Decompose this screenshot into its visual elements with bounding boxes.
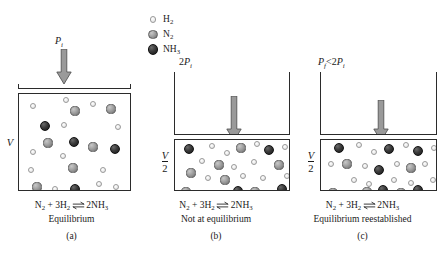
h2-molecule-icon <box>100 167 106 173</box>
nh3-molecule-icon <box>384 144 395 155</box>
n2-molecule-icon <box>32 182 41 190</box>
nh3-molecule-icon <box>110 144 121 155</box>
h2-molecule-icon <box>328 161 334 167</box>
n2-molecule-icon <box>328 188 337 190</box>
n2-molecule-icon <box>186 168 195 177</box>
nh3-molecule-icon <box>69 137 80 148</box>
h2-molecule-icon <box>282 144 288 150</box>
h2-molecule-icon <box>240 173 246 179</box>
pressure-label-c: Pf<2NPi <box>318 57 345 67</box>
n2-molecule-icon <box>88 142 97 151</box>
nh3-molecule-icon <box>233 186 244 190</box>
h2-molecule-icon <box>408 180 414 186</box>
h2-molecule-icon <box>430 177 436 183</box>
volume-fraction-c: V 2 <box>308 150 314 174</box>
nh3-molecule-icon <box>334 143 345 154</box>
n2-molecule-icon <box>70 106 79 115</box>
gas-region-b <box>175 140 289 190</box>
equilibrium-double-arrow-icon <box>363 201 376 210</box>
h2-molecule-icon <box>205 175 211 181</box>
volume-label-c: V 2 <box>303 150 319 174</box>
n2-molecule-icon <box>236 143 245 152</box>
gas-region-a <box>19 94 130 190</box>
panel-letter-a: (a) <box>0 230 143 243</box>
down-arrow-icon-a <box>56 49 72 85</box>
panel-letter-b: (b) <box>143 230 289 243</box>
h2-molecule-icon <box>422 161 428 167</box>
nh3-molecule-icon <box>413 185 424 190</box>
n2-molecule-icon <box>342 159 351 168</box>
h2-molecule-icon <box>30 149 36 155</box>
h2-molecule-icon <box>362 163 368 169</box>
equilibrium-double-arrow-icon <box>72 201 85 210</box>
nh3-molecule-icon <box>40 121 51 132</box>
h2-molecule-icon <box>30 103 36 109</box>
n2-molecule-icon <box>43 138 52 147</box>
caption-a: N2 + 3H22NH3 Equilibrium (a) <box>0 199 143 242</box>
h2-molecule-icon <box>251 159 257 165</box>
nh3-molecule-icon <box>374 165 385 176</box>
state-text-b: Not at equilibrium <box>143 213 289 226</box>
nh3-molecule-icon <box>184 144 195 155</box>
pressure-label-b: 2Pi <box>179 57 192 67</box>
nh3-molecule-icon <box>264 145 275 156</box>
h2-molecule-icon <box>115 124 121 130</box>
h2-molecule-icon <box>356 142 362 148</box>
panel-letter-c: (c) <box>289 230 436 243</box>
pressure-label-a: Pi <box>55 36 63 46</box>
h2-molecule-icon <box>113 184 119 190</box>
gas-region-c <box>321 140 436 190</box>
h2-molecule-icon <box>209 143 215 149</box>
equation-a: N2 + 3H22NH3 <box>0 199 143 212</box>
h2-molecule-icon <box>60 153 66 159</box>
panel-b: 2Pi V 2 N2 + 3H22NH3 Not at equilibrium … <box>143 0 289 270</box>
volume-label-a: V <box>3 138 17 149</box>
nh3-molecule-icon <box>277 184 288 190</box>
n2-molecule-icon <box>106 104 115 113</box>
panel-c: Pf<2NPi V 2 N2 + 3H22NH3 Equilibrium ree… <box>289 0 436 270</box>
n2-molecule-icon <box>362 187 371 190</box>
n2-molecule-icon <box>250 187 259 190</box>
h2-molecule-icon <box>52 186 58 190</box>
h2-molecule-icon <box>403 142 409 148</box>
h2-molecule-icon <box>28 167 34 173</box>
nh3-molecule-icon <box>378 185 389 190</box>
h2-molecule-icon <box>96 181 102 187</box>
h2-molecule-icon <box>254 141 260 147</box>
n2-molecule-icon <box>406 163 415 172</box>
equation-b: N2 + 3H22NH3 <box>143 199 289 212</box>
volume-label-b: V 2 <box>157 150 173 174</box>
h2-molecule-icon <box>366 181 372 187</box>
n2-molecule-icon <box>68 163 77 172</box>
n2-molecule-icon <box>214 160 223 169</box>
h2-molecule-icon <box>391 177 397 183</box>
h2-molecule-icon <box>90 101 96 107</box>
nh3-molecule-icon <box>413 146 424 157</box>
n2-molecule-icon <box>181 187 190 190</box>
n2-molecule-icon <box>396 188 405 190</box>
h2-molecule-icon <box>431 145 436 151</box>
n2-molecule-icon <box>274 160 283 169</box>
h2-molecule-icon <box>224 150 230 156</box>
state-text-c: Equilibrium reestablished <box>289 213 436 226</box>
h2-molecule-icon <box>199 158 205 164</box>
h2-molecule-icon <box>231 164 237 170</box>
h2-molecule-icon <box>260 175 266 181</box>
state-text-a: Equilibrium <box>0 213 143 226</box>
h2-molecule-icon <box>61 122 67 128</box>
equilibrium-double-arrow-icon <box>216 201 229 210</box>
h2-molecule-icon <box>394 161 400 167</box>
caption-c: N2 + 3H22NH3 Equilibrium reestablished (… <box>289 199 436 242</box>
n2-molecule-icon <box>220 175 229 184</box>
nh3-molecule-icon <box>70 184 81 190</box>
volume-fraction-b: V 2 <box>162 150 168 174</box>
equation-c: N2 + 3H22NH3 <box>289 199 436 212</box>
h2-molecule-icon <box>371 149 377 155</box>
caption-b: N2 + 3H22NH3 Not at equilibrium (b) <box>143 199 289 242</box>
panel-a: Pi V N2 + 3H22NH3 Equilibrium (a) <box>0 0 143 270</box>
h2-molecule-icon <box>63 97 69 103</box>
h2-molecule-icon <box>351 177 357 183</box>
